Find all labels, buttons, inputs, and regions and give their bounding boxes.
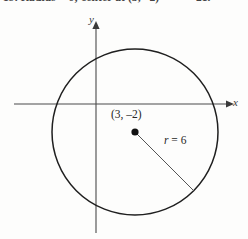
x-axis [14,100,234,107]
radius-value: = 6 [171,134,186,146]
figure-page: 19. Radius = 6; center at (3, –2) 21. y … [0,0,248,239]
center-coordinate-label: (3, –2) [111,108,142,120]
x-axis-label: x [233,96,238,108]
center-point-dot [131,128,138,135]
y-axis [92,21,99,233]
y-axis-label: y [89,13,94,25]
circle-graph-figure: y x (3, –2) r = 6 [0,0,248,239]
radius-variable: r [164,134,168,146]
radius-measure-label: r = 6 [164,134,186,146]
